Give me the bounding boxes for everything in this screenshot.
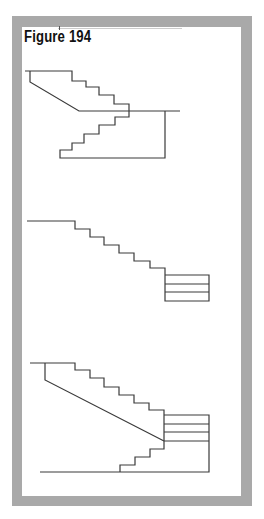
- diagram-combined-stair: [30, 363, 209, 472]
- diagram-split-stair: [25, 71, 180, 158]
- stair-diagrams: [0, 0, 264, 519]
- diagram-straight-stair: [27, 221, 209, 301]
